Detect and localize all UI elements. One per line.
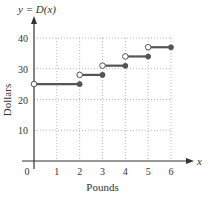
x-tick-label: 6 bbox=[169, 166, 174, 177]
y-axis-arrow-icon bbox=[31, 16, 37, 24]
x-tick-label: 3 bbox=[100, 166, 105, 177]
open-endpoint bbox=[77, 72, 83, 78]
y-tick-label: 20 bbox=[18, 95, 28, 106]
y-tick-label: 40 bbox=[18, 33, 28, 44]
x-tick-label: 4 bbox=[123, 166, 128, 177]
open-endpoint bbox=[123, 54, 129, 60]
open-endpoint bbox=[31, 81, 37, 87]
x-axis-symbol: x bbox=[196, 155, 202, 167]
y-tick-label: 10 bbox=[18, 125, 28, 136]
open-endpoint bbox=[100, 63, 106, 69]
closed-endpoint bbox=[168, 44, 174, 50]
closed-endpoint bbox=[123, 63, 129, 69]
closed-endpoint bbox=[145, 54, 151, 60]
x-tick-label: 0 bbox=[25, 166, 30, 177]
chart-title: y = D(x) bbox=[17, 3, 56, 16]
x-tick-label: 5 bbox=[146, 166, 151, 177]
x-axis-arrow-icon bbox=[186, 158, 194, 164]
y-tick-label: 30 bbox=[18, 64, 28, 75]
x-axis-label: Pounds bbox=[86, 181, 118, 193]
open-endpoint bbox=[145, 44, 151, 50]
closed-endpoint bbox=[100, 72, 106, 78]
step-chart: xy = D(x)012345610203040PoundsDollars bbox=[0, 0, 208, 198]
closed-endpoint bbox=[77, 81, 83, 87]
x-tick-label: 1 bbox=[54, 166, 59, 177]
x-tick-label: 2 bbox=[77, 166, 82, 177]
y-axis-label: Dollars bbox=[1, 84, 13, 116]
